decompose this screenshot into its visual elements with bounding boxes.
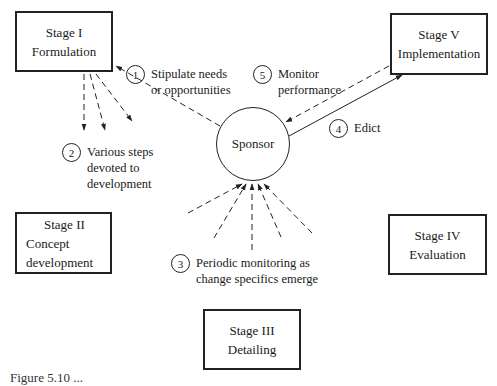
number-badge-2: 2 [62, 143, 81, 162]
annotation-5: 5 Monitor performance [253, 65, 373, 101]
annotation-2-line1: Various steps [87, 144, 153, 160]
number-badge-1: 1 [126, 65, 145, 84]
annotation-5-line2: performance [278, 82, 341, 98]
stage-1-title: Stage I [46, 23, 82, 42]
sponsor-label: Sponsor [232, 136, 275, 152]
stage-4-name: Evaluation [409, 245, 465, 264]
stage-5-box: Stage V Implementation [390, 13, 488, 75]
number-badge-3: 3 [171, 254, 190, 273]
stage-3-box: Stage III Detailing [203, 309, 301, 370]
annotation-2: 2 Various steps devoted to development [62, 143, 202, 195]
arrow-monitor-b [214, 184, 246, 238]
stage-2-name-line2: development [26, 253, 93, 272]
figure-caption: Figure 5.10 ... [10, 370, 83, 386]
stage-2-box: Stage II Concept development [15, 212, 112, 274]
stage-5-title: Stage V [418, 25, 459, 44]
stage-1-name: Formulation [32, 42, 96, 61]
annotation-5-line1: Monitor [278, 66, 341, 82]
sponsor-circle: Sponsor [216, 107, 290, 181]
arrow-monitor-e [264, 184, 312, 233]
stage-3-name: Detailing [228, 340, 276, 359]
annotation-1-line2: or opportunities [151, 82, 231, 98]
number-badge-5: 5 [253, 65, 272, 84]
stage-2-name-line1: Concept [26, 234, 69, 253]
annotation-4-line1: Edict [354, 120, 380, 136]
stage-4-title: Stage IV [415, 226, 461, 245]
number-badge-4: 4 [329, 119, 348, 138]
annotation-1-line1: Stipulate needs [151, 66, 231, 82]
annotation-4: 4 Edict [329, 119, 409, 141]
annotation-2-line3: development [87, 176, 153, 192]
annotation-3: 3 Periodic monitoring as change specific… [171, 254, 371, 290]
stage-1-box: Stage I Formulation [15, 11, 113, 72]
stage-4-box: Stage IV Evaluation [388, 214, 487, 275]
arrow-monitor-d [258, 184, 281, 237]
stage-3-title: Stage III [229, 321, 274, 340]
annotation-2-line2: devoted to [87, 160, 153, 176]
stage-5-name: Implementation [398, 44, 480, 63]
stage-2-title: Stage II [26, 215, 85, 234]
annotation-3-line2: change specifics emerge [196, 271, 318, 287]
annotation-3-line1: Periodic monitoring as [196, 255, 318, 271]
